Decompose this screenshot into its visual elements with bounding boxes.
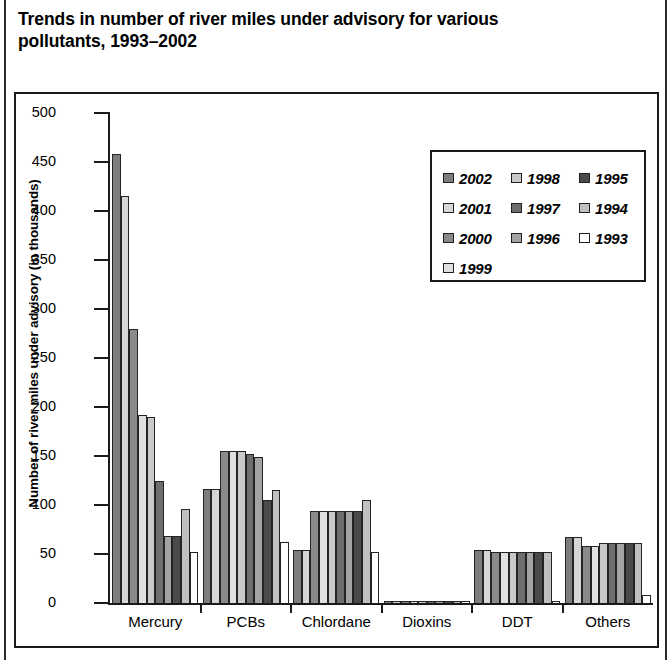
bar[interactable] — [500, 552, 509, 603]
legend-swatch-icon — [579, 233, 590, 243]
bar[interactable] — [121, 196, 130, 603]
legend-item[interactable]: 1997 — [511, 200, 579, 217]
bar[interactable] — [371, 552, 380, 603]
legend-swatch-icon — [443, 233, 454, 243]
legend-swatch-icon — [511, 203, 522, 213]
y-axis-tick-label: 150 — [0, 448, 56, 463]
bar[interactable] — [345, 511, 354, 603]
legend-swatch-icon — [511, 173, 522, 183]
bar[interactable] — [362, 500, 371, 603]
legend-item[interactable]: 2000 — [443, 230, 511, 247]
bar[interactable] — [129, 329, 138, 603]
legend-label: 1997 — [527, 200, 560, 217]
bar[interactable] — [246, 454, 255, 603]
bar[interactable] — [138, 415, 147, 603]
legend-item[interactable]: 1999 — [443, 260, 511, 277]
x-axis-label: Dioxins — [382, 614, 473, 629]
bar[interactable] — [582, 546, 591, 603]
y-axis-tick-label: 0 — [0, 595, 56, 610]
bar[interactable] — [591, 546, 600, 603]
bar[interactable] — [625, 543, 634, 603]
bar[interactable] — [211, 489, 220, 603]
x-axis-tick — [290, 605, 292, 613]
legend-label: 1998 — [527, 170, 560, 187]
bar[interactable] — [272, 490, 281, 603]
legend-swatch-icon — [443, 203, 454, 213]
bar[interactable] — [483, 550, 492, 603]
legend-item[interactable]: 2001 — [443, 200, 511, 217]
legend-item[interactable]: 1994 — [579, 200, 641, 217]
bar[interactable] — [599, 543, 608, 603]
bar[interactable] — [280, 542, 289, 603]
y-axis-tick-label: 250 — [0, 350, 56, 365]
legend-swatch-icon — [511, 233, 522, 243]
x-axis-label: Chlordane — [291, 614, 382, 629]
bar[interactable] — [634, 543, 643, 603]
bar[interactable] — [220, 451, 229, 603]
bar[interactable] — [302, 550, 311, 603]
legend-label: 2002 — [459, 170, 492, 187]
bar[interactable] — [190, 552, 199, 603]
legend-item[interactable]: 1995 — [579, 170, 641, 187]
y-axis-tick-label: 350 — [0, 252, 56, 267]
bar[interactable] — [155, 481, 164, 604]
x-axis-label: DDT — [472, 614, 563, 629]
x-axis-label: Others — [563, 614, 654, 629]
bar[interactable] — [474, 550, 483, 603]
y-axis-tick-label: 500 — [0, 105, 56, 120]
x-axis-label: PCBs — [201, 614, 292, 629]
bar[interactable] — [293, 550, 302, 603]
x-axis-tick — [200, 605, 202, 613]
bar[interactable] — [319, 511, 328, 603]
bar[interactable] — [565, 537, 574, 603]
y-axis-tick-label: 200 — [0, 399, 56, 414]
legend-label: 1993 — [595, 230, 628, 247]
bar[interactable] — [172, 536, 181, 603]
bar-group — [203, 113, 289, 603]
page-edge-rule-left — [4, 0, 6, 660]
bar[interactable] — [534, 552, 543, 603]
legend-swatch-icon — [443, 263, 454, 273]
bar[interactable] — [147, 417, 156, 603]
y-axis-tick-label: 300 — [0, 301, 56, 316]
bar[interactable] — [164, 536, 173, 603]
bar[interactable] — [203, 489, 212, 603]
bar[interactable] — [526, 552, 535, 603]
bar[interactable] — [616, 543, 625, 603]
chart-title: Trends in number of river miles under ad… — [18, 8, 578, 52]
bar[interactable] — [229, 451, 238, 603]
bar-group — [293, 113, 379, 603]
bar[interactable] — [608, 543, 617, 603]
y-axis-tick-label: 450 — [0, 154, 56, 169]
legend-item[interactable]: 1993 — [579, 230, 641, 247]
bar[interactable] — [517, 552, 526, 603]
legend-label: 1996 — [527, 230, 560, 247]
bar[interactable] — [573, 537, 582, 603]
page-edge-rule-right — [665, 0, 667, 660]
x-axis-tick — [562, 605, 564, 613]
legend-swatch-icon — [443, 173, 454, 183]
legend-item[interactable]: 2002 — [443, 170, 511, 187]
bar[interactable] — [254, 457, 263, 603]
legend-swatch-icon — [579, 203, 590, 213]
x-axis-tick — [381, 605, 383, 613]
bar[interactable] — [112, 154, 121, 603]
bar[interactable] — [263, 500, 272, 603]
bar[interactable] — [642, 595, 651, 603]
bar[interactable] — [491, 552, 500, 603]
legend-item[interactable]: 1998 — [511, 170, 579, 187]
bar[interactable] — [353, 511, 362, 603]
bar[interactable] — [181, 509, 190, 603]
y-axis-tick-label: 50 — [0, 546, 56, 561]
legend-item[interactable]: 1996 — [511, 230, 579, 247]
bar[interactable] — [509, 552, 518, 603]
bar[interactable] — [543, 552, 552, 603]
bar[interactable] — [336, 511, 345, 603]
bar[interactable] — [237, 451, 246, 603]
bar[interactable] — [310, 511, 319, 603]
legend-label: 1999 — [459, 260, 492, 277]
plot-area: Number of river miles under advisory (in… — [16, 94, 657, 646]
bar[interactable] — [328, 511, 337, 603]
x-axis-label: Mercury — [110, 614, 201, 629]
y-axis-tick-label: 400 — [0, 203, 56, 218]
